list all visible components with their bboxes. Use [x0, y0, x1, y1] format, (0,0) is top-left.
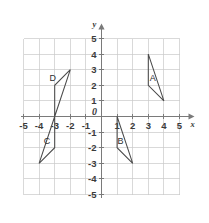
y-tick-label: 3	[91, 64, 96, 75]
x-tick-label: -4	[35, 120, 44, 131]
shape-label-b: B	[118, 136, 124, 146]
y-tick-label: 2	[91, 80, 96, 91]
y-axis-arrow	[98, 24, 104, 30]
shape-label-c: C	[44, 136, 51, 146]
y-axis-label: y	[92, 19, 97, 29]
y-tick-label: 4	[91, 49, 97, 60]
y-tick-label: -1	[88, 127, 97, 138]
x-tick-label: 5	[177, 120, 183, 131]
shape-label-a: A	[150, 73, 156, 83]
coordinate-plane-figure: -5-4-3-2-112345-5-4-3-2-1123450 xy ABCD	[0, 0, 209, 223]
y-tick-label: 1	[91, 95, 97, 106]
x-tick-label: 2	[130, 120, 135, 131]
x-tick-label: -5	[19, 120, 28, 131]
coordinate-grid-svg: -5-4-3-2-112345-5-4-3-2-1123450 xy ABCD	[0, 0, 209, 223]
x-tick-label: 4	[161, 120, 167, 131]
shape-d	[55, 70, 71, 117]
shape-label-d: D	[50, 73, 57, 83]
x-tick-label: -2	[66, 120, 74, 131]
x-axis-label: x	[189, 119, 195, 129]
y-tick-label: -4	[88, 173, 97, 184]
y-tick-label: 5	[91, 33, 97, 44]
y-tick-label: -2	[88, 142, 96, 153]
origin-label: 0	[92, 106, 97, 117]
x-tick-label: 3	[146, 120, 151, 131]
y-tick-label: -5	[88, 189, 97, 200]
axes	[21, 24, 195, 198]
y-tick-label: -3	[88, 158, 96, 169]
